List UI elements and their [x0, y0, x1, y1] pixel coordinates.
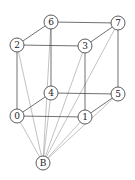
node-label: B — [40, 158, 47, 168]
apex-edge-B-5 — [48, 99, 113, 159]
cube-graph-diagram: 01234567B — [0, 0, 135, 180]
node-label: 3 — [82, 41, 88, 51]
node-1: 1 — [78, 110, 92, 124]
cube-edge-group — [17, 22, 118, 117]
node-label: 7 — [115, 18, 121, 28]
cube-edge-6-2 — [23, 26, 45, 41]
cube-edge-4-0 — [23, 97, 45, 112]
cube-edge-6-7 — [58, 22, 111, 23]
cube-edge-4-5 — [58, 93, 111, 94]
node-label: 2 — [14, 40, 20, 50]
graph-canvas: 01234567B — [0, 0, 135, 180]
node-label: 4 — [48, 88, 54, 98]
node-label: 1 — [82, 112, 88, 122]
apex-edge-B-0 — [20, 122, 39, 157]
node-2: 2 — [10, 38, 24, 52]
node-label: 6 — [48, 17, 54, 27]
node-B: B — [36, 156, 50, 170]
node-3: 3 — [78, 39, 92, 53]
cube-edge-0-1 — [24, 116, 78, 117]
node-0: 0 — [10, 109, 24, 123]
apex-edge-B-1 — [48, 122, 81, 158]
node-label: 5 — [115, 89, 121, 99]
cube-edge-1-5 — [91, 98, 113, 113]
node-label: 0 — [14, 111, 20, 121]
node-5: 5 — [111, 87, 125, 101]
node-4: 4 — [44, 86, 58, 100]
node-7: 7 — [111, 16, 125, 30]
node-6: 6 — [44, 15, 58, 29]
apex-edge-B-2 — [19, 52, 42, 156]
